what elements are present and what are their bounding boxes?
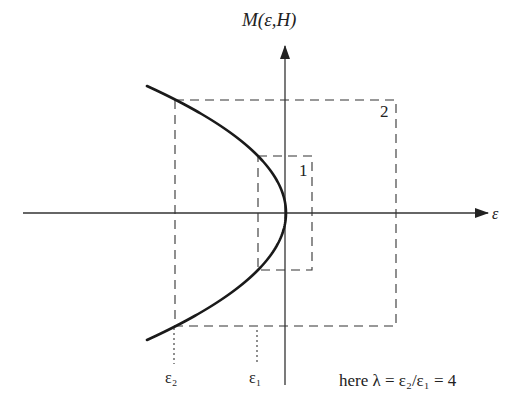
eps2-tick-label: ε₂: [165, 369, 177, 386]
box-2-label: 2: [380, 102, 389, 121]
box-1-label: 1: [299, 161, 308, 180]
eps1-tick-label: ε₁: [249, 369, 261, 386]
lambda-annotation: here λ = ε₂/ε₁ = 4: [339, 371, 457, 390]
x-axis-label: ε: [492, 205, 499, 222]
phase-diagram: M(ε,H) ε 2 1 ε₂ ε₁ here λ = ε₂/ε₁ = 4: [0, 0, 519, 410]
y-axis-label: M(ε,H): [241, 9, 296, 31]
